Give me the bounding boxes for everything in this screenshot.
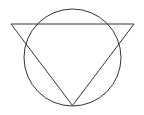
geometric-figure-svg: Circle with inscribed inverted triangle: [0, 0, 144, 115]
figure-canvas: Circle with inscribed inverted triangle: [0, 0, 144, 115]
inverted-triangle-shape: [11, 24, 134, 106]
